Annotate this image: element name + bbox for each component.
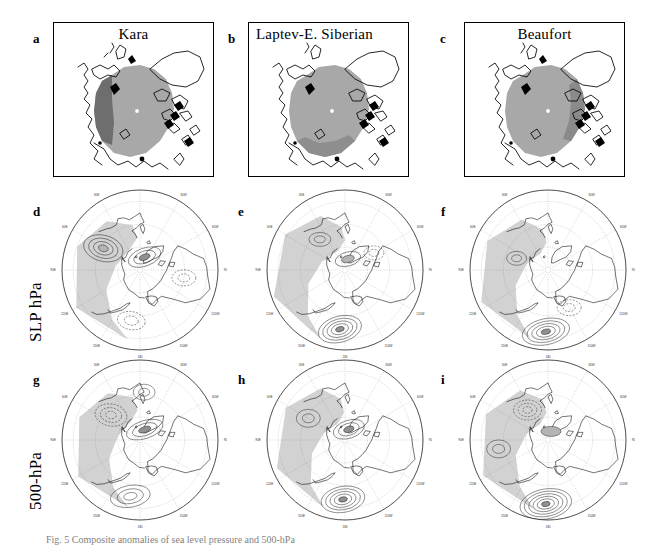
longitude-label: 60W bbox=[417, 225, 423, 229]
longitude-label: 90E bbox=[50, 268, 56, 272]
longitude-label: 30W bbox=[385, 363, 391, 367]
panel-letter-h: h bbox=[238, 373, 245, 386]
polar-f-graphic: 30E60E90E120E150E180150W120W90W60W30W0 bbox=[450, 186, 635, 358]
longitude-label: 60W bbox=[212, 395, 218, 399]
polar-i-graphic: 30E60E90E120E150E180150W120W90W60W30W0 bbox=[450, 356, 635, 528]
longitude-label: 60E bbox=[267, 395, 273, 399]
longitude-label: 150E bbox=[501, 514, 508, 518]
longitude-label: 30W bbox=[588, 363, 594, 367]
longitude-label: 30E bbox=[502, 363, 508, 367]
longitude-label: 90W bbox=[224, 438, 227, 442]
longitude-label: 180 bbox=[342, 525, 347, 528]
longitude-label: 150W bbox=[587, 344, 595, 348]
longitude-label: 90E bbox=[458, 268, 464, 272]
ice-map-kara: Kara bbox=[53, 22, 214, 177]
longitude-label: 150E bbox=[298, 514, 305, 518]
longitude-label: 60W bbox=[212, 225, 218, 229]
longitude-label: 60E bbox=[62, 225, 68, 229]
ice-map-beaufort-graphic bbox=[465, 23, 624, 176]
longitude-label: 30E bbox=[94, 363, 100, 367]
panel-letter-a: a bbox=[33, 32, 40, 45]
longitude-label: 90W bbox=[429, 268, 432, 272]
panel-letter-d: d bbox=[33, 205, 40, 218]
polar-map-f-slp-beaufort: 30E60E90E120E150E180150W120W90W60W30W0 bbox=[450, 186, 635, 358]
longitude-label: 30E bbox=[299, 363, 305, 367]
polar-map-g-z500-kara: 30E60E90E120E150E180150W120W90W60W30W0 bbox=[42, 356, 227, 528]
polar-map-i-z500-beaufort: 30E60E90E120E150E180150W120W90W60W30W0 bbox=[450, 356, 635, 528]
ice-map-laptev-graphic bbox=[249, 23, 408, 176]
longitude-label: 120E bbox=[61, 482, 68, 486]
panel-letter-f: f bbox=[441, 205, 445, 218]
longitude-label: 90E bbox=[255, 438, 261, 442]
longitude-label: 60E bbox=[267, 225, 273, 229]
longitude-label: 120E bbox=[61, 312, 68, 316]
longitude-label: 90E bbox=[50, 438, 56, 442]
longitude-label: 150W bbox=[384, 514, 392, 518]
longitude-label: 90W bbox=[632, 268, 635, 272]
longitude-label: 150E bbox=[501, 344, 508, 348]
longitude-label: 30W bbox=[180, 363, 186, 367]
longitude-label: 150W bbox=[384, 344, 392, 348]
longitude-label: 30W bbox=[588, 193, 594, 197]
panel-letter-b: b bbox=[228, 32, 235, 45]
longitude-label: 180 bbox=[137, 525, 142, 528]
longitude-label: 120W bbox=[211, 482, 219, 486]
panel-letter-c: c bbox=[440, 32, 446, 45]
longitude-label: 60W bbox=[417, 395, 423, 399]
longitude-label: 60E bbox=[470, 395, 476, 399]
panel-letter-e: e bbox=[238, 205, 244, 218]
longitude-label: 90E bbox=[458, 438, 464, 442]
ice-map-beaufort: Beaufort bbox=[464, 22, 625, 177]
longitude-label: 150E bbox=[298, 344, 305, 348]
polar-map-h-z500-laptev: 30E60E90E120E150E180150W120W90W60W30W0 bbox=[247, 356, 432, 528]
polar-h-graphic: 30E60E90E120E150E180150W120W90W60W30W0 bbox=[247, 356, 432, 528]
longitude-label: 60W bbox=[620, 395, 626, 399]
polar-g-graphic: 30E60E90E120E150E180150W120W90W60W30W0 bbox=[42, 356, 227, 528]
longitude-label: 120E bbox=[469, 482, 476, 486]
longitude-label: 90W bbox=[429, 438, 432, 442]
longitude-label: 30E bbox=[94, 193, 100, 197]
longitude-label: 30W bbox=[180, 193, 186, 197]
longitude-label: 120E bbox=[266, 312, 273, 316]
longitude-label: 120W bbox=[416, 312, 424, 316]
polar-map-e-slp-laptev: 30E60E90E120E150E180150W120W90W60W30W0 bbox=[247, 186, 432, 358]
figure-panel-grid: SLP hPa 500-hPa a b c Kara bbox=[0, 0, 650, 550]
ice-map-kara-graphic bbox=[54, 23, 213, 176]
polar-d-graphic: 30E60E90E120E150E180150W120W90W60W30W0 bbox=[42, 186, 227, 358]
longitude-label: 60E bbox=[62, 395, 68, 399]
anomaly-contour bbox=[541, 426, 561, 436]
longitude-label: 60E bbox=[470, 225, 476, 229]
longitude-label: 150W bbox=[179, 344, 187, 348]
panel-letter-g: g bbox=[33, 373, 40, 386]
longitude-label: 120W bbox=[416, 482, 424, 486]
longitude-label: 150W bbox=[587, 514, 595, 518]
panel-letter-i: i bbox=[441, 373, 445, 386]
ice-map-laptev: Laptev-E. Siberian bbox=[248, 22, 409, 177]
longitude-label: 60W bbox=[620, 225, 626, 229]
polar-map-d-slp-kara: 30E60E90E120E150E180150W120W90W60W30W0 bbox=[42, 186, 227, 358]
longitude-label: 120E bbox=[469, 312, 476, 316]
longitude-label: 150E bbox=[93, 344, 100, 348]
polar-e-graphic: 30E60E90E120E150E180150W120W90W60W30W0 bbox=[247, 186, 432, 358]
longitude-label: 150W bbox=[179, 514, 187, 518]
longitude-label: 180 bbox=[545, 525, 550, 528]
longitude-label: 120W bbox=[211, 312, 219, 316]
longitude-label: 90W bbox=[224, 268, 227, 272]
longitude-label: 30W bbox=[385, 193, 391, 197]
longitude-label: 90W bbox=[632, 438, 635, 442]
longitude-label: 150E bbox=[93, 514, 100, 518]
longitude-label: 90E bbox=[255, 268, 261, 272]
figure-caption: Fig. 5 Composite anomalies of sea level … bbox=[46, 534, 606, 548]
longitude-label: 120W bbox=[619, 312, 627, 316]
longitude-label: 120W bbox=[619, 482, 627, 486]
longitude-label: 30E bbox=[299, 193, 305, 197]
longitude-label: 120E bbox=[266, 482, 273, 486]
longitude-label: 30E bbox=[502, 193, 508, 197]
